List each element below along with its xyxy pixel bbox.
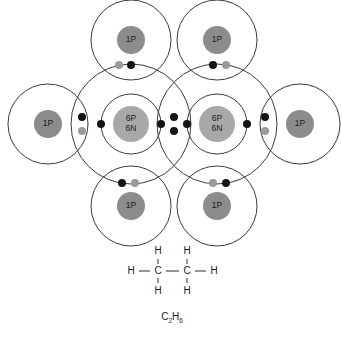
sf-h-bottom-right: H (183, 285, 190, 296)
hydrogen-bottom-left-nucleus-label: 1P (126, 200, 137, 210)
nucleus-layer: 6P6N6P6N1P1P1P1P1P1P (34, 26, 314, 220)
ch-far-left-carbon-e (78, 113, 86, 121)
ch-far-right-hydrogen-e (261, 127, 269, 135)
sf-h-top-left: H (154, 245, 161, 256)
hydrogen-far-left-nucleus-label: 1P (43, 118, 54, 128)
molecular-formula: C2H6 (161, 311, 183, 324)
c-left-inner-e1 (97, 120, 105, 128)
carbon-right-nucleus-label: 6P (212, 113, 223, 123)
electron-layer (78, 61, 269, 187)
sf-c-left: C (154, 265, 161, 276)
c-right-inner-e2 (243, 120, 251, 128)
ch-bottom-left-hydrogen-e (131, 179, 139, 187)
ethane-bohr-diagram: 6P6N6P6N1P1P1P1P1P1P HHHCCHHHC2H6 (0, 0, 342, 339)
cc-bond-e-lower (170, 127, 178, 135)
sf-h-left: H (127, 265, 134, 276)
hydrogen-bottom-right-nucleus-label: 1P (212, 200, 223, 210)
bohr-model-svg: 6P6N6P6N1P1P1P1P1P1P HHHCCHHHC2H6 (0, 0, 342, 339)
ch-top-right-carbon-e (209, 61, 217, 69)
ch-bottom-right-carbon-e (222, 179, 230, 187)
c-right-inner-e1 (183, 120, 191, 128)
hydrogen-far-right-nucleus-label: 1P (295, 118, 306, 128)
hydrogen-top-left-nucleus-label: 1P (126, 34, 137, 44)
ch-bottom-left-carbon-e (118, 179, 126, 187)
structural-formula-layer: HHHCCHHHC2H6 (127, 245, 217, 324)
sf-h-right: H (210, 265, 217, 276)
cc-bond-e-upper (170, 113, 178, 121)
ch-far-left-hydrogen-e (78, 127, 86, 135)
sf-c-right: C (183, 265, 190, 276)
ch-far-right-carbon-e (261, 113, 269, 121)
c-left-inner-e2 (157, 120, 165, 128)
ch-top-right-hydrogen-e (222, 61, 230, 69)
hydrogen-top-right-nucleus-label: 1P (212, 34, 223, 44)
carbon-left-nucleus-label: 6P (126, 113, 137, 123)
carbon-right-nucleus-label: 6N (212, 123, 223, 133)
sf-h-bottom-left: H (154, 285, 161, 296)
ch-bottom-right-hydrogen-e (209, 179, 217, 187)
carbon-left-nucleus-label: 6N (126, 123, 137, 133)
ch-top-left-carbon-e (127, 61, 135, 69)
sf-h-top-right: H (183, 245, 190, 256)
ch-top-left-hydrogen-e (115, 61, 123, 69)
